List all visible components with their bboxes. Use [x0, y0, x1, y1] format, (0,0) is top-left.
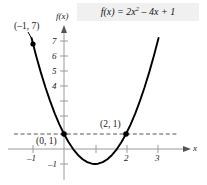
y-tick-label-4: 4: [52, 82, 57, 91]
point-marker-0-1: [61, 131, 67, 137]
point-label-0-1: (0, 1): [36, 137, 57, 147]
point-leader-line: [28, 32, 33, 40]
point-label-minus1-7: (–1, 7): [14, 22, 39, 32]
point-label-2-1: (2, 1): [100, 120, 121, 130]
x-axis-label: x: [193, 144, 197, 153]
x-tick-label-2: 2: [124, 154, 129, 163]
y-tick-label-6: 6: [52, 52, 57, 61]
y-axis-arrowhead: [61, 25, 67, 33]
y-tick-label-5: 5: [52, 67, 57, 76]
x-tick-label-3: 3: [155, 154, 160, 163]
point-marker-minus1-7: [30, 41, 35, 46]
point-marker-2-1: [123, 131, 129, 137]
x-tick-label-minus1: –1: [27, 154, 36, 163]
y-tick-label-7: 7: [52, 37, 57, 46]
parabola-graph-figure: f(x) = 2x2 – 4x + 1: [0, 0, 207, 185]
y-axis-label: f(x): [56, 12, 69, 21]
y-tick-label-minus1: –1: [48, 160, 57, 169]
x-axis-arrowhead: [183, 146, 191, 152]
